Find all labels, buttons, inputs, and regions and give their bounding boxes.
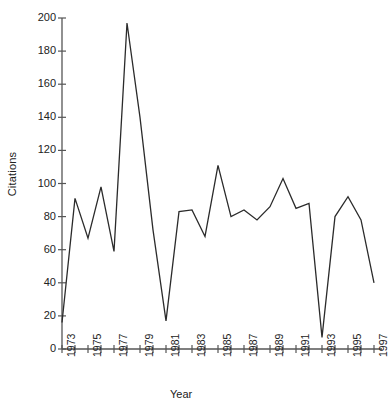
x-tick-label: 1975 [92,334,103,357]
x-tick-label: 1973 [66,334,77,357]
y-tick-label: 20 [20,310,56,321]
y-tick-label: 120 [20,144,56,155]
x-tick-label: 1977 [118,334,129,357]
x-tick-label: 1997 [378,334,389,357]
x-tick-label: 1983 [196,334,207,357]
x-axis-title: Year [170,388,192,400]
x-tick-label: 1981 [170,334,181,357]
y-tick-label: 40 [20,277,56,288]
y-tick-label: 60 [20,244,56,255]
y-tick-label: 160 [20,78,56,89]
y-axis-title: Citations [6,134,18,214]
x-tick-label: 1995 [352,334,363,357]
y-tick-label: 140 [20,111,56,122]
y-tick-label: 80 [20,211,56,222]
x-tick-label: 1993 [326,334,337,357]
x-tick-label: 1991 [300,334,311,357]
citations-line-series [62,23,374,337]
y-tick-label: 0 [20,343,56,354]
axis-tick-marks [58,18,374,353]
x-tick-label: 1979 [144,334,155,357]
citations-by-year-line-chart: Citations Year 0204060801001201401601802… [0,0,390,405]
y-tick-label: 100 [20,178,56,189]
x-tick-label: 1987 [248,334,259,357]
y-tick-label: 180 [20,45,56,56]
x-tick-label: 1989 [274,334,285,357]
x-tick-label: 1985 [222,334,233,357]
y-tick-label: 200 [20,12,56,23]
